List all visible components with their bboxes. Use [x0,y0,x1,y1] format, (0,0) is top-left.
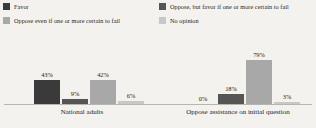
bar-value-label: 43% [28,71,66,79]
legend-label-oppose-even-if-certain-to-fail: Oppose even if one or more certain to fa… [14,17,120,24]
bar-value-label: 79% [240,51,278,59]
bar-slot: 3% [274,30,300,104]
legend-swatch-oppose-even-if-certain-to-fail [3,17,10,24]
bar-group-oppose-assistance-on-initial-question: 0% 18% 79% 3% Oppose assistance on initi… [164,30,312,124]
legend-item-oppose-but-favor-if-certain-to-fail: Oppose, but favor if one or more certain… [159,3,289,10]
legend-label-no-opinion: No opinion [170,17,199,24]
legend-label-favor: Favor [14,3,29,10]
bar-group-national-adults: 43% 9% 42% 6% National adults [8,30,156,124]
plot-area: 43% 9% 42% 6% National adults [0,30,316,128]
bar-slot: 9% [62,30,88,104]
legend-label-oppose-but-favor-if-certain-to-fail: Oppose, but favor if one or more certain… [170,3,289,10]
chart-legend: Favor Oppose even if one or more certain… [0,0,316,30]
legend-swatch-no-opinion [159,17,166,24]
legend-swatch-oppose-but-favor-if-certain-to-fail [159,3,166,10]
legend-item-no-opinion: No opinion [159,17,199,24]
bar-slot: 6% [118,30,144,104]
bar-slot: 18% [218,30,244,104]
bar-value-label: 6% [112,92,150,100]
legend-swatch-favor [3,3,10,10]
bar-value-label: 18% [212,85,250,93]
category-label-national-adults: National adults [8,108,156,117]
bar-chart: Favor Oppose even if one or more certain… [0,0,316,128]
bar-value-label: 9% [56,90,94,98]
category-label-oppose-assistance-on-initial-question: Oppose assistance on initial question [164,108,312,117]
bar-group-oppose-assistance-on-initial-question-bars: 0% 18% 79% 3% [164,30,312,104]
bar-value-label: 3% [268,93,306,101]
bar [218,94,244,104]
bar [62,99,88,104]
bar-value-label: 42% [84,71,122,79]
bar-value-label: 0% [184,95,222,103]
bar-group-national-adults-bars: 43% 9% 42% 6% [8,30,156,104]
legend-item-favor: Favor [3,3,29,10]
bar [274,102,300,104]
legend-item-oppose-even-if-certain-to-fail: Oppose even if one or more certain to fa… [3,17,120,24]
bar [118,101,144,104]
